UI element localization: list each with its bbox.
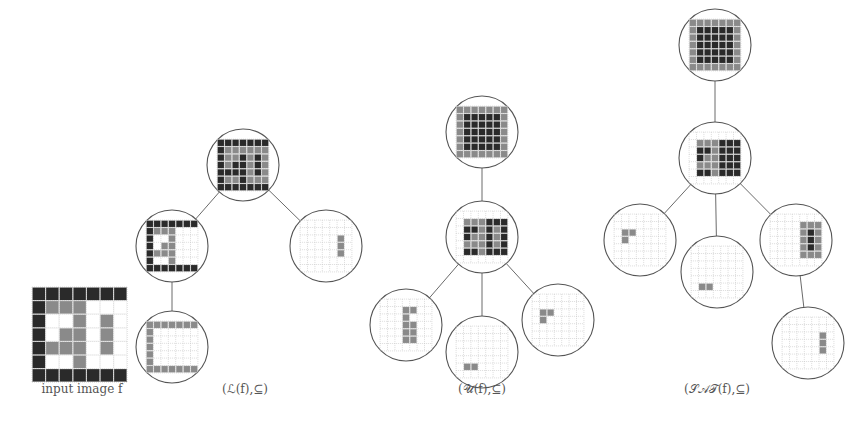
tree-node-s5	[772, 307, 844, 379]
input-image	[32, 287, 127, 382]
tree-node-u4	[522, 284, 594, 356]
tree-node-u2	[370, 289, 442, 361]
input-image-label: input image f	[28, 382, 136, 396]
input-image-grid	[32, 287, 127, 382]
tree-node-s0	[679, 9, 751, 81]
tree-node-l0	[207, 129, 279, 201]
tree-diagram	[0, 0, 861, 424]
tree-node-l2	[290, 210, 362, 282]
tree-node-l3	[136, 311, 208, 383]
node-image-s0	[689, 19, 741, 71]
tree-node-u1	[446, 201, 518, 273]
caption-upper-text: (𝒰(f),⊆)	[458, 382, 506, 396]
node-image-s1	[689, 132, 741, 184]
tree-node-u0	[446, 96, 518, 168]
node-image-u1	[456, 211, 508, 263]
tree-node-s4	[760, 204, 832, 276]
tree-node-s2	[604, 204, 676, 276]
tree-nodes	[136, 9, 844, 388]
caption-sat-text: (𝒮𝒜𝒯(f),⊆)	[684, 382, 750, 396]
node-image-l0	[217, 139, 269, 191]
tree-node-s1	[679, 122, 751, 194]
caption-sat-tree: (𝒮𝒜𝒯(f),⊆)	[657, 382, 777, 396]
caption-lower-text: (ℒ(f),⊆)	[222, 382, 268, 396]
tree-node-u3	[446, 316, 518, 388]
tree-node-s3	[681, 236, 753, 308]
input-label-text: input image f	[41, 382, 122, 396]
node-image-u0	[456, 106, 508, 158]
caption-lower-tree: (ℒ(f),⊆)	[185, 382, 305, 396]
tree-node-l1	[136, 210, 208, 282]
caption-upper-tree: (𝒰(f),⊆)	[422, 382, 542, 396]
